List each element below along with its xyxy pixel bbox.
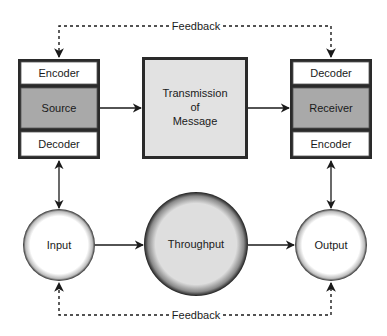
- channel-label-line3: Message: [173, 115, 218, 127]
- receiver-decoder-label: Decoder: [310, 67, 352, 79]
- throughput-label: Throughput: [168, 238, 224, 250]
- feedback-top-label: Feedback: [172, 20, 221, 32]
- receiver-receiver-label: Receiver: [309, 102, 353, 114]
- input-label: Input: [47, 239, 71, 251]
- output-label: Output: [314, 239, 347, 251]
- communication-diagram: Feedback Feedback Encoder Source Decoder…: [0, 0, 387, 336]
- channel-label-line2: of: [190, 101, 200, 113]
- channel-label-line1: Transmission: [163, 87, 228, 99]
- feedback-bottom-label: Feedback: [172, 309, 221, 321]
- sender-source-label: Source: [42, 102, 77, 114]
- receiver-encoder-label: Encoder: [311, 138, 352, 150]
- sender-encoder-label: Encoder: [39, 67, 80, 79]
- sender-decoder-label: Decoder: [38, 138, 80, 150]
